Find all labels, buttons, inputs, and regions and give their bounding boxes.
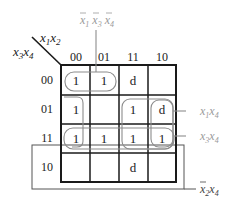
- cell: d: [130, 73, 137, 88]
- svg-text:x1x4: x1x4: [199, 104, 219, 120]
- cell: d: [130, 160, 137, 175]
- cell: 1: [73, 73, 80, 88]
- svg-text:x2x4: x2x4: [199, 182, 219, 198]
- col-header: 01: [98, 50, 110, 64]
- row-header: 01: [41, 102, 53, 116]
- cell: d: [159, 102, 166, 117]
- col-vars-label: x1x2: [39, 30, 61, 47]
- col-header: 00: [70, 50, 82, 64]
- cell: 1: [159, 131, 166, 146]
- svg-text:x3x4: x3x4: [12, 44, 34, 61]
- karnaugh-map: x1x2 x3x4 00 01 11 10 00 01 11 10: [0, 0, 236, 206]
- row-header: 10: [41, 160, 53, 174]
- label-x1-x4: x1x4: [199, 104, 219, 120]
- label-x1bar-x3bar-x4bar: x1 x3 x4: [79, 13, 114, 29]
- label-x2bar-x4: x2x4: [199, 182, 219, 198]
- cell: 1: [130, 131, 137, 146]
- cell: 1: [73, 131, 80, 146]
- cell: 1: [73, 102, 80, 117]
- col-header: 10: [156, 50, 168, 64]
- col-header: 11: [127, 50, 139, 64]
- svg-text:x3x4: x3x4: [199, 129, 219, 145]
- row-vars-label: x3x4: [12, 44, 34, 61]
- label-x3-x4: x3x4: [199, 129, 219, 145]
- cell: 1: [101, 131, 108, 146]
- cell: 1: [101, 73, 108, 88]
- row-header: 00: [41, 73, 53, 87]
- svg-text:x1x2: x1x2: [39, 30, 61, 47]
- cell: 1: [130, 102, 137, 117]
- row-header: 11: [41, 131, 53, 145]
- svg-text:x1 x3 x4: x1 x3 x4: [79, 13, 114, 29]
